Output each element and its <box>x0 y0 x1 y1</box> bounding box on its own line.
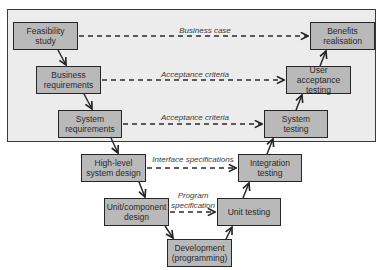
box-benefits-realisation: Benefits realisation <box>310 22 375 50</box>
box-label: Feasibility study <box>26 26 66 46</box>
box-user-acceptance-testing: User acceptance testing <box>286 66 351 94</box>
box-label: High-level system design <box>84 158 144 178</box>
flow-arrow <box>267 139 273 154</box>
box-integration-testing: Integration testing <box>238 154 302 182</box>
label-acceptance-criteria-system: Acceptance criteria <box>150 113 240 123</box>
flow-arrow <box>111 138 118 153</box>
box-label: Integration testing <box>248 158 293 178</box>
label-interface-specifications: Interface specifications <box>148 155 238 165</box>
flow-arrow <box>165 226 173 238</box>
box-label: Unit testing <box>228 207 271 217</box>
box-label: System testing <box>279 114 314 134</box>
box-label: Business requirements <box>41 70 96 90</box>
flow-arrow <box>226 227 232 239</box>
flow-arrow <box>139 182 145 197</box>
box-label: Development (programming) <box>170 243 230 263</box>
box-high-level-system-design: High-level system design <box>81 154 146 182</box>
flow-arrow <box>243 183 249 198</box>
label-program-specification: Program specification <box>168 191 218 210</box>
box-feasibility-study: Feasibility study <box>13 22 78 50</box>
label-business-case: Business case <box>165 26 245 36</box>
flow-arrow <box>320 51 326 66</box>
flow-arrow <box>58 50 66 65</box>
box-label: Unit/component design <box>106 202 168 222</box>
box-label: User acceptance testing <box>288 65 350 95</box>
label-acceptance-criteria-uat: Acceptance criteria <box>150 70 240 80</box>
box-unit-component-design: Unit/component design <box>104 198 169 226</box>
box-system-requirements: System requirements <box>58 110 122 138</box>
box-system-testing: System testing <box>264 110 328 138</box>
flow-arrow <box>84 94 92 109</box>
box-business-requirements: Business requirements <box>36 66 101 94</box>
box-unit-testing: Unit testing <box>217 198 281 226</box>
flow-arrow <box>296 95 302 110</box>
box-development: Development (programming) <box>167 239 232 267</box>
box-label: Benefits realisation <box>318 26 368 46</box>
box-label: System requirements <box>63 114 118 134</box>
